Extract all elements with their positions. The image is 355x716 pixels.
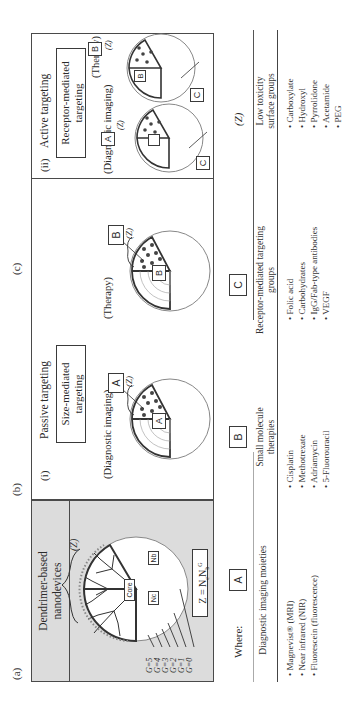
panel-c-therapy-surface-label: (Z): [104, 40, 113, 50]
equation-box: Z = NcNbG: [192, 549, 208, 617]
legend-item: Pyrrolidone: [308, 79, 320, 128]
panel-label-b: (b): [10, 483, 22, 496]
panel-a-dendrimer-nanodevices: Dendrimer-based nanodevices: [31, 500, 214, 682]
where-label: Where:: [232, 626, 244, 658]
legend-key-c: C: [229, 274, 247, 296]
panel-c-diag-ligand-label: C: [196, 156, 210, 170]
panel-b-boxed-text: Size-mediated targeting: [56, 345, 86, 443]
legend-item: Fluorescein (fluorescence): [308, 575, 320, 676]
panel-b-diag-surface-label: (Z): [124, 376, 134, 387]
panel-b-diag-outer-label: A: [108, 373, 124, 393]
legend-item: Folic acid: [284, 227, 296, 320]
legend-header-b-line-1: Small molecule: [255, 372, 266, 502]
legend-item: Acetamide: [320, 79, 332, 128]
generation-labels: G=5 G=4 G=3 G=2 G=1 G=0: [146, 658, 194, 673]
panel-c-therapy-outer-label: B: [88, 42, 102, 56]
panel-c-box-line-2: targeting: [72, 49, 85, 157]
panel-a-title: Dendrimer-based nanodevices: [32, 501, 70, 681]
legend-item: Carbohydrates: [296, 227, 308, 320]
legend-header-z: Low toxicity surface groups: [255, 46, 277, 156]
panel-b-caption-diagnostic: (Diagnostic imaging): [102, 389, 113, 479]
legend-list-b: Cisplatin Methotrexate Adriamycin 5-Fluo…: [284, 431, 332, 488]
legend-header-c: Receptor-mediated targeting groups: [255, 200, 277, 360]
legend-key-b: B: [229, 426, 247, 448]
legend-item: Carboxylate: [284, 79, 296, 128]
panel-b-therapy-outer-label: B: [108, 225, 124, 245]
panel-b-therapy-inner-label: B: [152, 265, 166, 281]
nb-label: Nb: [148, 551, 159, 565]
panel-label-c: (c): [10, 263, 22, 275]
figure-stage: (a) (b) (c) Dendrimer-based nanodevices: [0, 0, 355, 716]
panel-c-box-line-1: Receptor-mediated: [59, 49, 72, 157]
panel-b-box-line-2: targeting: [72, 346, 85, 442]
eq-sub-c: c: [204, 577, 210, 580]
table-top-rule-left: [253, 452, 254, 682]
legend-header-a-line-1: Diagnostic imaging moieties: [258, 520, 269, 680]
panel-c-therapy-inner-label: B: [134, 70, 146, 82]
table-top-rule-right: [253, 30, 254, 320]
legend-item: Magnevist® (MRI): [284, 575, 296, 676]
legend-item: PEG: [332, 79, 344, 128]
panel-c-boxed-text: Receptor-mediated targeting: [56, 48, 86, 158]
nc-label: Nc: [148, 591, 159, 605]
panel-b-numeral: (i): [38, 471, 50, 481]
legend-header-z-line-1: Low toxicity: [255, 46, 266, 156]
panel-c-heading: Active targeting: [38, 74, 50, 148]
legend-item: Methotrexate: [296, 431, 308, 488]
eq-sup-g: G: [197, 562, 203, 566]
legend-header-b-line-2: therapies: [266, 372, 277, 502]
panel-label-a: (a): [10, 668, 22, 680]
panel-b-caption-therapy: (Therapy): [102, 277, 113, 319]
legend-header-a: Diagnostic imaging moieties: [258, 520, 269, 680]
panel-b-box-line-1: Size-mediated: [59, 346, 72, 442]
surface-z-label: (Z): [68, 539, 79, 551]
eq-mid: N: [197, 570, 208, 577]
legend-item: Hydroxyl: [296, 79, 308, 128]
legend-list-z: Carboxylate Hydroxyl Pyrrolidone Acetami…: [284, 79, 344, 128]
panel-c-diag-surface-label: (Z): [116, 120, 125, 130]
legend-header-b: Small molecule therapies: [255, 372, 277, 502]
panel-c-numeral: (ii): [38, 159, 50, 172]
panel-c-diag-inner-box: [148, 134, 160, 146]
panel-b-therapy-surface-label: (Z): [124, 228, 134, 239]
legend-item: Adriamycin: [308, 431, 320, 488]
legend-header-c-line-1: Receptor-mediated targeting: [255, 200, 266, 360]
legend-header-z-line-2: surface groups: [266, 46, 277, 156]
legend-item: Cisplatin: [284, 431, 296, 488]
core-label: Core: [124, 579, 135, 601]
panel-c-therapy-ligand-label: C: [190, 88, 204, 102]
panel-b-heading: Passive targeting: [38, 361, 50, 439]
gen-label-0: G=0: [186, 658, 194, 673]
legend-item: VEGF: [320, 227, 332, 320]
legend-item: IgG/Fab-type antibodies: [308, 227, 320, 320]
legend-item: Near infrared (NIR): [296, 575, 308, 676]
panel-b-passive-targeting: (i) Passive targeting Size-mediated targ…: [31, 178, 214, 500]
legend-list-c: Folic acid Carbohydrates IgG/Fab-type an…: [284, 227, 332, 320]
legend-item: 5-Fluorouracil: [320, 431, 332, 488]
legend-list-a: Magnevist® (MRI) Near infrared (NIR) Flu…: [284, 575, 320, 676]
panel-a-title-line-2: nanodevices: [50, 501, 64, 681]
eq-lhs: Z = N: [197, 580, 208, 604]
legend-key-a: A: [229, 569, 247, 591]
panel-b-diag-inner-label: A: [152, 413, 166, 429]
panel-c-diag-outer-label: A: [101, 132, 115, 146]
panel-a-title-line-1: Dendrimer-based: [36, 501, 50, 681]
table-header-rule: [277, 30, 278, 682]
eq-sub-b: b: [204, 567, 210, 570]
legend-header-c-line-2: groups: [266, 200, 277, 360]
legend-key-z: (Z): [232, 113, 244, 126]
